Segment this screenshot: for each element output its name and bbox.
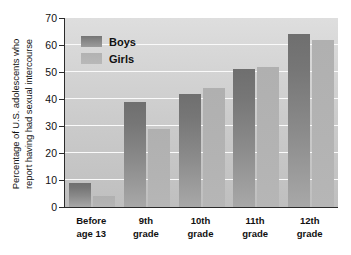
bar-girls-10th-grade	[203, 88, 225, 207]
y-axis: 010203040506070	[40, 0, 64, 255]
legend-swatch-boys-icon	[81, 36, 102, 47]
bar-girls-9th-grade	[148, 129, 170, 207]
y-tick-label-70: 70	[39, 12, 57, 24]
x-axis-category-2-line-1: 10th	[173, 214, 228, 227]
y-tick-label-0: 0	[39, 201, 57, 213]
legend-item-boys: Boys	[81, 33, 136, 50]
x-axis-category-2-line-2: grade	[173, 227, 228, 240]
chart-legend: Boys Girls	[81, 33, 136, 67]
x-axis-category-1-line-1: 9th	[119, 214, 174, 227]
x-axis-labels: Beforeage 139thgrade10thgrade11thgrade12…	[64, 214, 337, 252]
y-axis-title-line-1: Percentage of U.S. adolescents who	[10, 14, 23, 214]
x-axis-category-3-line-1: 11th	[228, 214, 283, 227]
x-axis-category-3-line-2: grade	[228, 227, 283, 240]
legend-item-girls: Girls	[81, 50, 136, 67]
x-axis-category-0: Beforeage 13	[64, 214, 119, 240]
bar-boys-12th-grade	[288, 34, 310, 207]
bar-boys-9th-grade	[124, 102, 146, 207]
x-axis-category-0-line-1: Before	[64, 214, 119, 227]
y-tick-label-50: 50	[39, 66, 57, 78]
bar-chart-figure: Percentage of U.S. adolescents who repor…	[0, 0, 351, 255]
legend-label-girls: Girls	[109, 53, 134, 65]
y-tick-label-20: 20	[39, 147, 57, 159]
bar-boys-10th-grade	[179, 94, 201, 207]
x-axis-category-4: 12thgrade	[282, 214, 337, 240]
x-axis-category-0-line-2: age 13	[64, 227, 119, 240]
x-axis-category-1-line-2: grade	[119, 227, 174, 240]
y-axis-title-line-2: report having had sexual intercourse	[23, 14, 36, 214]
x-axis-category-4-line-2: grade	[282, 227, 337, 240]
bar-boys-before-age-13	[69, 183, 91, 207]
legend-swatch-girls-icon	[81, 53, 102, 64]
legend-label-boys: Boys	[109, 36, 136, 48]
x-axis-category-3: 11thgrade	[228, 214, 283, 240]
y-tick-label-60: 60	[39, 39, 57, 51]
bar-girls-before-age-13	[93, 196, 115, 207]
bar-girls-11th-grade	[257, 67, 279, 207]
bar-girls-12th-grade	[312, 40, 334, 207]
y-tick-label-30: 30	[39, 120, 57, 132]
y-tick-label-40: 40	[39, 93, 57, 105]
x-axis-category-1: 9thgrade	[119, 214, 174, 240]
y-axis-title: Percentage of U.S. adolescents who repor…	[10, 14, 40, 214]
y-tick-label-10: 10	[39, 174, 57, 186]
x-axis-category-4-line-1: 12th	[282, 214, 337, 227]
bar-boys-11th-grade	[233, 69, 255, 207]
x-axis-category-2: 10thgrade	[173, 214, 228, 240]
